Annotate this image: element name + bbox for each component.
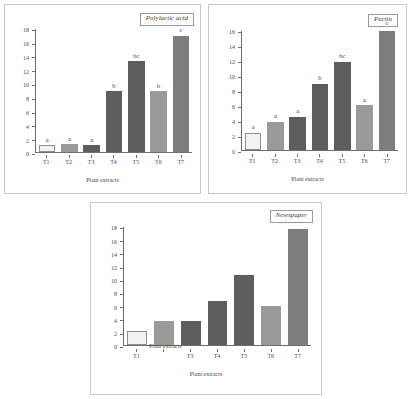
bar-slot — [231, 227, 258, 345]
chart-panel-pectin: Pectin aaabbcac 0246810121416 T1T2T3T4T5… — [208, 4, 407, 194]
bar-slot — [258, 227, 285, 345]
bar[interactable] — [261, 306, 281, 345]
y-tick-label: 2 — [232, 134, 235, 140]
y-tick-mark — [32, 126, 35, 127]
plot-area-polylactic-acid: aaabbcbc 024681012141618 — [35, 29, 192, 153]
x-tick-mark — [181, 155, 182, 158]
x-tick-mark — [217, 349, 218, 352]
significance-letter: bc — [339, 53, 345, 60]
x-tick-labels: T1T3T4T5T6T7 — [123, 349, 311, 359]
bar-slot: a — [264, 31, 286, 150]
bar-group: aaabbcac — [242, 31, 398, 150]
chart-title-pectin: Pectin — [368, 14, 398, 27]
overlapping-axis-label: Plant extracts — [149, 343, 182, 349]
y-tick-label: 14 — [111, 252, 117, 258]
bar[interactable] — [356, 105, 372, 150]
bar[interactable] — [181, 321, 201, 345]
y-tick-label: 12 — [111, 265, 117, 271]
y-tick-label: 2 — [114, 331, 117, 337]
y-tick-label: 16 — [229, 29, 235, 35]
y-tick-label: 8 — [114, 291, 117, 297]
y-tick-mark — [238, 107, 241, 108]
bar[interactable] — [334, 62, 350, 151]
bar[interactable] — [61, 144, 77, 152]
y-tick-mark — [120, 268, 123, 269]
x-tick — [150, 349, 177, 359]
x-tick: T4 — [102, 155, 124, 165]
y-tick-label: 12 — [23, 69, 29, 75]
bar-slot: c — [376, 31, 398, 150]
bar[interactable] — [154, 321, 174, 345]
x-tick: T3 — [286, 154, 308, 164]
x-axis-line — [241, 150, 398, 151]
y-tick: 16 — [229, 22, 241, 40]
x-tick-mark — [91, 155, 92, 158]
x-tick: T4 — [308, 154, 330, 164]
bar[interactable] — [289, 117, 305, 150]
bar-slot: a — [81, 29, 103, 152]
significance-letter: a — [252, 124, 255, 131]
x-tick: T6 — [147, 155, 169, 165]
y-tick-mark — [32, 140, 35, 141]
y-tick-mark — [32, 30, 35, 31]
x-tick-mark — [298, 349, 299, 352]
significance-letter: c — [179, 27, 182, 34]
x-tick-mark — [271, 349, 272, 352]
bar[interactable] — [83, 145, 99, 152]
y-tick-mark — [32, 57, 35, 58]
bar[interactable] — [39, 145, 55, 152]
y-tick-label: 16 — [111, 239, 117, 245]
bar[interactable] — [106, 91, 122, 152]
significance-letter: b — [112, 83, 115, 90]
y-tick-mark — [238, 62, 241, 63]
y-tick-mark — [32, 71, 35, 72]
y-tick-label: 10 — [23, 82, 29, 88]
y-tick-label: 4 — [232, 119, 235, 125]
chart-panel-newspaper: Newspaper 024681012141618 T1T3T4T5T6T7 P… — [90, 202, 322, 395]
bar[interactable] — [127, 331, 147, 345]
x-tick-mark — [319, 154, 320, 157]
bar[interactable] — [150, 91, 166, 152]
bar[interactable] — [208, 301, 228, 345]
x-tick: T5 — [125, 155, 147, 165]
significance-letter: bc — [133, 53, 139, 60]
y-tick-label: 10 — [229, 74, 235, 80]
bar[interactable] — [379, 31, 395, 150]
significance-letter: a — [296, 108, 299, 115]
bar-slot — [177, 227, 204, 345]
x-tick: T6 — [353, 154, 375, 164]
x-tick: T7 — [170, 155, 192, 165]
bar[interactable] — [267, 122, 283, 150]
bar[interactable] — [234, 275, 254, 345]
y-tick-label: 4 — [26, 124, 29, 130]
y-tick-label: 0 — [114, 344, 117, 350]
bar[interactable] — [288, 229, 308, 345]
plot-area-pectin: aaabbcac 0246810121416 — [241, 31, 398, 151]
bar[interactable] — [173, 36, 189, 152]
bar[interactable] — [312, 84, 328, 150]
y-tick-mark — [120, 294, 123, 295]
y-tick-label: 14 — [23, 55, 29, 61]
x-tick-mark — [69, 155, 70, 158]
chart-panel-polylactic-acid: Polylactic acid aaabbcbc 024681012141618… — [4, 4, 201, 194]
bar-slot — [151, 227, 178, 345]
y-tick: 18 — [23, 20, 35, 38]
x-tick-mark — [46, 155, 47, 158]
y-tick-mark — [120, 307, 123, 308]
y-tick-mark — [120, 241, 123, 242]
x-tick-mark — [158, 155, 159, 158]
x-tick: T1 — [241, 154, 263, 164]
bar-slot: a — [58, 29, 80, 152]
y-tick-mark — [120, 347, 123, 348]
x-tick: T3 — [177, 349, 204, 359]
x-tick-mark — [252, 154, 253, 157]
x-axis-title: Plant extracts — [209, 176, 406, 182]
y-tick-label: 6 — [114, 305, 117, 311]
bar-slot: a — [287, 31, 309, 150]
bar[interactable] — [128, 61, 144, 152]
bar[interactable] — [245, 133, 261, 150]
y-tick-mark — [238, 122, 241, 123]
y-tick-mark — [238, 137, 241, 138]
y-tick-mark — [32, 44, 35, 45]
y-tick-mark — [238, 32, 241, 33]
